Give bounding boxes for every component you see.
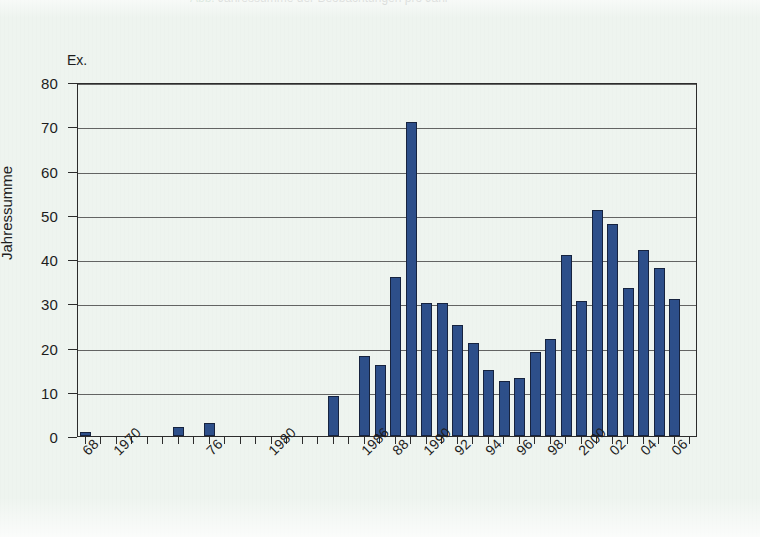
bar bbox=[406, 122, 417, 436]
y-axis-tick bbox=[68, 304, 77, 305]
bar bbox=[561, 255, 572, 436]
y-axis-title: Jahressumme bbox=[0, 166, 15, 260]
bar bbox=[545, 339, 556, 436]
x-axis-tick bbox=[503, 437, 504, 444]
bar bbox=[483, 370, 494, 436]
bar bbox=[390, 277, 401, 436]
bar bbox=[654, 268, 665, 436]
y-axis-unit-label: Ex. bbox=[67, 52, 87, 68]
x-axis-tick bbox=[565, 437, 566, 444]
x-axis-tick bbox=[240, 437, 241, 444]
bar bbox=[669, 299, 680, 436]
y-axis-tick-label: 60 bbox=[41, 163, 58, 180]
y-axis-tick-label: 20 bbox=[41, 340, 58, 357]
x-axis-tick bbox=[658, 437, 659, 444]
bar bbox=[204, 423, 215, 436]
y-axis-tick-label: 10 bbox=[41, 384, 58, 401]
x-axis-tick bbox=[255, 437, 256, 444]
bar-series bbox=[78, 84, 696, 436]
x-axis-tick bbox=[100, 437, 101, 444]
plot-area bbox=[77, 83, 697, 437]
x-axis-tick bbox=[689, 437, 690, 444]
y-axis-tick bbox=[68, 393, 77, 394]
x-axis-tick bbox=[147, 437, 148, 444]
y-axis-ticks bbox=[68, 83, 78, 437]
x-axis-tick bbox=[224, 437, 225, 444]
figure-caption-strip: Abb. Jahressumme der Beobachtungen pro J… bbox=[0, 0, 760, 13]
bar bbox=[173, 427, 184, 436]
figure-caption: Abb. Jahressumme der Beobachtungen pro J… bbox=[190, 0, 449, 5]
x-axis-tick bbox=[302, 437, 303, 444]
y-axis-tick bbox=[68, 172, 77, 173]
y-axis-tick-label: 50 bbox=[41, 207, 58, 224]
y-axis-tick bbox=[68, 260, 77, 261]
y-axis-tick bbox=[68, 216, 77, 217]
bar bbox=[421, 303, 432, 436]
bar bbox=[514, 378, 525, 436]
bar bbox=[530, 352, 541, 436]
x-axis-tick-labels: 6819707619801986881990929496982000020406 bbox=[77, 447, 717, 527]
caption-rest: Jahressumme der Beobachtungen pro Jahr bbox=[215, 0, 449, 5]
bar bbox=[437, 303, 448, 436]
bar bbox=[452, 325, 463, 436]
y-axis-tick bbox=[68, 83, 77, 84]
y-axis-tick-label: 80 bbox=[41, 75, 58, 92]
caption-highlight: Abb. bbox=[190, 0, 215, 5]
bar bbox=[623, 288, 634, 436]
x-axis-tick bbox=[193, 437, 194, 444]
y-axis-tick-label: 30 bbox=[41, 296, 58, 313]
y-axis-tick bbox=[68, 437, 77, 438]
x-axis-tick bbox=[472, 437, 473, 444]
x-axis-tick bbox=[162, 437, 163, 444]
y-axis-tick-label: 40 bbox=[41, 252, 58, 269]
bar bbox=[468, 343, 479, 436]
x-axis-tick bbox=[317, 437, 318, 444]
bar bbox=[499, 381, 510, 436]
bar bbox=[328, 396, 339, 436]
y-axis-tick bbox=[68, 349, 77, 350]
x-axis-tick bbox=[333, 437, 334, 444]
bar bbox=[592, 210, 603, 436]
bar bbox=[359, 356, 370, 436]
bar bbox=[576, 301, 587, 436]
chart-figure: Abb. Jahressumme der Beobachtungen pro J… bbox=[0, 0, 760, 537]
x-axis-tick bbox=[348, 437, 349, 444]
x-axis-tick bbox=[627, 437, 628, 444]
y-axis-tick bbox=[68, 127, 77, 128]
y-axis-tick-label: 0 bbox=[49, 429, 58, 446]
bar bbox=[638, 250, 649, 436]
bar bbox=[607, 224, 618, 436]
x-axis-tick bbox=[178, 437, 179, 444]
x-axis-tick bbox=[410, 437, 411, 444]
y-axis-tick-label: 70 bbox=[41, 119, 58, 136]
x-axis-tick bbox=[534, 437, 535, 444]
